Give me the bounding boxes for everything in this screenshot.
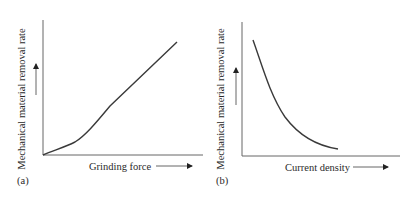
panel-label-a: (a) <box>17 175 29 187</box>
y-axis-label-a: Mechanical material removal rate <box>16 28 27 170</box>
figure: Mechanical material removal rate Grindin… <box>0 0 417 197</box>
x-axis-label-a: Grinding force <box>89 161 151 172</box>
curve-a <box>43 42 177 155</box>
x-axis-label-b: Current density <box>285 162 351 173</box>
panel-label-b: (b) <box>216 175 229 187</box>
y-axis-label-b: Mechanical material removal rate <box>215 28 226 170</box>
curve-b <box>253 40 338 149</box>
panel-a: Mechanical material removal rate Grindin… <box>16 20 203 187</box>
panel-b: Mechanical material removal rate Current… <box>215 22 400 187</box>
